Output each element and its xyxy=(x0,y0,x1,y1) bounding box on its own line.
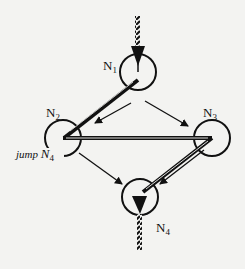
exit-edge xyxy=(137,214,142,250)
edge-n1-n2 xyxy=(95,103,131,123)
diagram: N1 N2 N3 N4 jump N4 xyxy=(0,0,245,269)
trace-n1-n2 xyxy=(64,80,138,138)
entry-edge xyxy=(131,16,145,72)
label-n3: N3 xyxy=(203,105,217,122)
label-n4: N4 xyxy=(156,220,170,237)
trace-n3-n4 xyxy=(132,138,212,214)
diagram-canvas: N1 N2 N3 N4 jump N4 xyxy=(0,0,245,269)
label-n1: N1 xyxy=(103,58,117,75)
edge-n3-n4 xyxy=(160,150,204,184)
jump-annotation: jump N4 xyxy=(14,146,54,163)
edge-n2-n4 xyxy=(79,153,122,184)
label-n2: N2 xyxy=(46,105,60,122)
edge-n1-n3 xyxy=(145,101,188,126)
